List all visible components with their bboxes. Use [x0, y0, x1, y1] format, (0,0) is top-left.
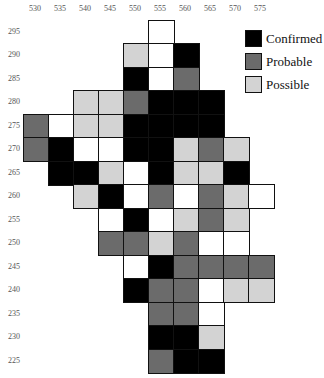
grid-cell-none [98, 208, 125, 233]
grid-cell-probable [98, 231, 125, 256]
x-tick-label: 570 [223, 4, 247, 13]
grid-cell-confirmed [123, 114, 150, 139]
grid-cell-confirmed [73, 161, 100, 186]
grid-cell-none [123, 161, 150, 186]
grid-cell-probable [173, 302, 200, 327]
grid-cell-none [198, 231, 225, 256]
grid-cell-probable [23, 137, 50, 162]
legend-swatch-probable [245, 53, 262, 70]
grid-cell-possible [223, 208, 250, 233]
grid-cell-confirmed [48, 161, 75, 186]
grid-cell-possible [223, 184, 250, 209]
x-tick-label: 565 [198, 4, 222, 13]
grid-cell-none [123, 184, 150, 209]
grid-cell-possible [173, 208, 200, 233]
legend-label-confirmed: Confirmed [266, 31, 322, 47]
y-tick-label: 245 [2, 262, 26, 271]
grid-cell-probable [198, 255, 225, 280]
grid-cell-confirmed [148, 114, 175, 139]
y-tick-label: 255 [2, 215, 26, 224]
grid-cell-probable [198, 208, 225, 233]
grid-cell-confirmed [173, 90, 200, 115]
grid-cell-none [48, 114, 75, 139]
x-tick-label: 550 [123, 4, 147, 13]
grid-cell-confirmed [123, 67, 150, 92]
grid-cell-probable [198, 184, 225, 209]
grid-cell-probable [173, 231, 200, 256]
grid-cell-confirmed [98, 184, 125, 209]
grid-cell-possible [148, 231, 175, 256]
grid-cell-confirmed [173, 325, 200, 350]
grid-cell-confirmed [123, 137, 150, 162]
grid-cell-probable [123, 90, 150, 115]
y-tick-label: 260 [2, 191, 26, 200]
grid-cell-confirmed [198, 349, 225, 374]
legend-label-possible: Possible [266, 77, 309, 93]
grid-cell-none [148, 20, 175, 45]
y-tick-label: 230 [2, 332, 26, 341]
grid-cell-probable [173, 278, 200, 303]
grid-cell-confirmed [173, 349, 200, 374]
grid-cell-possible [198, 325, 225, 350]
y-tick-label: 240 [2, 285, 26, 294]
grid-cell-none [73, 137, 100, 162]
grid-cell-possible [198, 161, 225, 186]
grid-cell-probable [23, 114, 50, 139]
x-tick-label: 535 [48, 4, 72, 13]
x-tick-label: 530 [23, 4, 47, 13]
y-tick-label: 265 [2, 168, 26, 177]
grid-cell-none [223, 231, 250, 256]
grid-cell-possible [73, 114, 100, 139]
grid-cell-probable [123, 231, 150, 256]
x-tick-label: 575 [248, 4, 272, 13]
legend-swatch-confirmed [245, 30, 262, 47]
grid-cell-probable [248, 255, 275, 280]
grid-cell-confirmed [173, 114, 200, 139]
grid-cell-probable [223, 255, 250, 280]
grid-cell-none [148, 67, 175, 92]
grid-cell-confirmed [48, 137, 75, 162]
grid-cell-confirmed [148, 137, 175, 162]
x-tick-label: 545 [98, 4, 122, 13]
grid-cell-probable [148, 278, 175, 303]
grid-cell-possible [98, 161, 125, 186]
grid-cell-confirmed [223, 161, 250, 186]
y-tick-label: 235 [2, 309, 26, 318]
grid-cell-confirmed [148, 90, 175, 115]
x-tick-label: 540 [73, 4, 97, 13]
grid-cell-confirmed [198, 114, 225, 139]
y-tick-label: 285 [2, 74, 26, 83]
x-tick-label: 560 [173, 4, 197, 13]
grid-cell-none [98, 137, 125, 162]
grid-cell-possible [73, 90, 100, 115]
y-tick-label: 250 [2, 238, 26, 247]
y-tick-label: 295 [2, 27, 26, 36]
grid-cell-probable [148, 349, 175, 374]
grid-cell-possible [223, 137, 250, 162]
grid-cell-probable [173, 255, 200, 280]
grid-cell-none [148, 208, 175, 233]
grid-cell-none [198, 278, 225, 303]
grid-cell-possible [98, 114, 125, 139]
grid-cell-probable [198, 137, 225, 162]
grid-cell-confirmed [198, 90, 225, 115]
grid-cell-probable [173, 67, 200, 92]
y-tick-label: 225 [2, 356, 26, 365]
grid-cell-possible [98, 90, 125, 115]
grid-cell-possible [173, 161, 200, 186]
legend-label-probable: Probable [266, 54, 312, 70]
grid-cell-confirmed [123, 208, 150, 233]
grid-cell-possible [123, 43, 150, 68]
grid-cell-possible [223, 278, 250, 303]
grid-cell-confirmed [148, 255, 175, 280]
grid-cell-none [248, 184, 275, 209]
grid-cell-none [198, 302, 225, 327]
grid-cell-confirmed [123, 278, 150, 303]
grid-cell-possible [173, 137, 200, 162]
grid-cell-probable [148, 184, 175, 209]
grid-cell-possible [73, 184, 100, 209]
grid-cell-confirmed [173, 43, 200, 68]
grid-cell-probable [148, 302, 175, 327]
grid-cell-none [148, 43, 175, 68]
grid-cell-possible [248, 278, 275, 303]
